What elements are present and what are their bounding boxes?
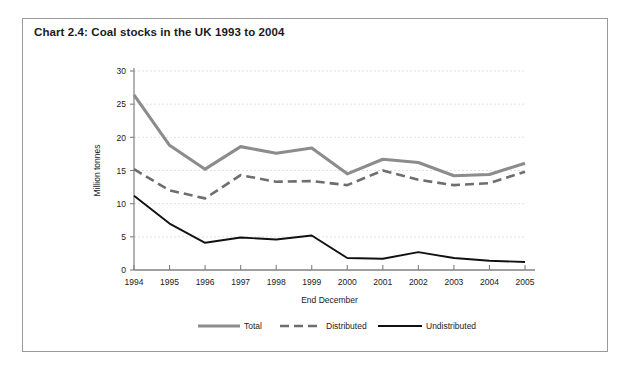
x-tick-label: 2004 [480,277,499,287]
legend-label-distributed: Distributed [326,321,367,331]
y-axis-title: Million tonnes [92,145,102,197]
x-tick-label: 2000 [338,277,357,287]
x-tick-label: 2001 [373,277,392,287]
x-tick-label: 1996 [196,277,215,287]
y-tick-label: 5 [121,232,126,242]
x-tick-label: 2005 [516,277,535,287]
series-line-total [134,95,525,176]
x-tick-label: 2002 [409,277,428,287]
y-tick-label: 30 [117,66,127,76]
series-line-undistributed [134,196,525,262]
y-axis-ticks-group: 051015202530 [117,66,134,275]
series-line-distributed [134,169,525,198]
gridlines-group [134,71,525,237]
chart-legend: TotalDistributedUndistributed [198,321,476,331]
chart-frame: Chart 2.4: Coal stocks in the UK 1993 to… [22,18,608,352]
y-tick-label: 25 [117,99,127,109]
legend-label-total: Total [244,321,262,331]
y-tick-label: 0 [121,265,126,275]
y-tick-label: 20 [117,133,127,143]
x-tick-label: 1995 [160,277,179,287]
x-axis-ticks-group: 1994199519961997199819992000200120022003… [125,265,535,287]
x-tick-label: 1997 [231,277,250,287]
y-tick-label: 15 [117,166,127,176]
x-tick-label: 1998 [267,277,286,287]
x-tick-label: 1999 [302,277,321,287]
x-axis-title: End December [301,295,358,305]
x-tick-label: 1994 [125,277,144,287]
line-chart-plot: 051015202530 199419951996199719981999200… [23,19,609,353]
y-tick-label: 10 [117,199,127,209]
legend-label-undistributed: Undistributed [426,321,476,331]
x-tick-label: 2003 [444,277,463,287]
